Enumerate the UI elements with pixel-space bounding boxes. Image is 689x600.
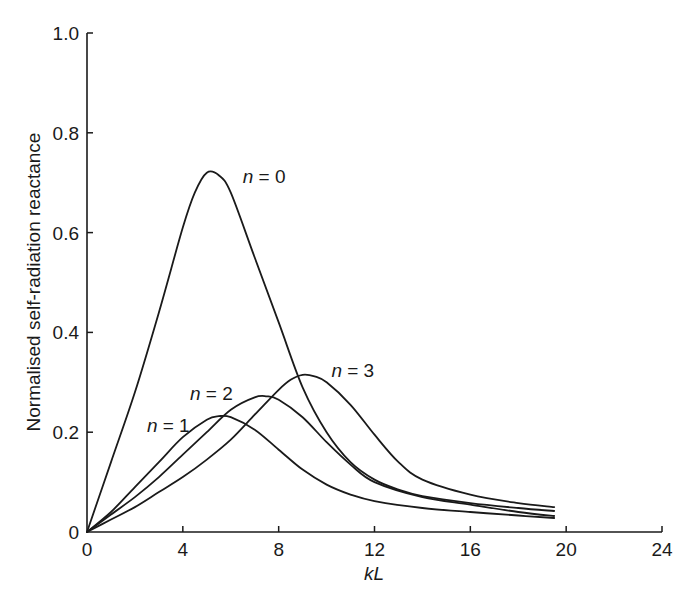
series-lines	[87, 171, 554, 532]
x-tick-label: 8	[273, 539, 284, 560]
series-label-n0: n = 0	[243, 166, 286, 187]
series-line-n3	[87, 375, 554, 532]
y-tick-label: 0.6	[53, 223, 79, 244]
y-tick-label: 0.2	[53, 422, 79, 443]
series-label-n2: n = 2	[190, 383, 233, 404]
line-chart: 04812162024 00.20.40.60.81.0 n = 0n = 1n…	[0, 0, 689, 600]
x-tick-label: 0	[82, 539, 93, 560]
x-tick-label: 16	[460, 539, 481, 560]
y-tick-label: 0.8	[53, 123, 79, 144]
x-tick-label: 12	[364, 539, 385, 560]
x-axis-title: kL	[364, 563, 384, 584]
x-tick-label: 4	[178, 539, 189, 560]
x-tick-label: 24	[651, 539, 673, 560]
chart-axes	[87, 33, 662, 532]
x-tick-label: 20	[556, 539, 577, 560]
y-tick-label: 0	[68, 522, 79, 543]
y-tick-label: 1.0	[53, 23, 79, 44]
y-tick-label: 0.4	[53, 322, 80, 343]
x-ticks: 04812162024	[82, 526, 673, 560]
series-label-n1: n = 1	[147, 415, 190, 436]
series-label-n3: n = 3	[331, 360, 374, 381]
y-axis-title: Normalised self-radiation reactance	[23, 133, 44, 432]
